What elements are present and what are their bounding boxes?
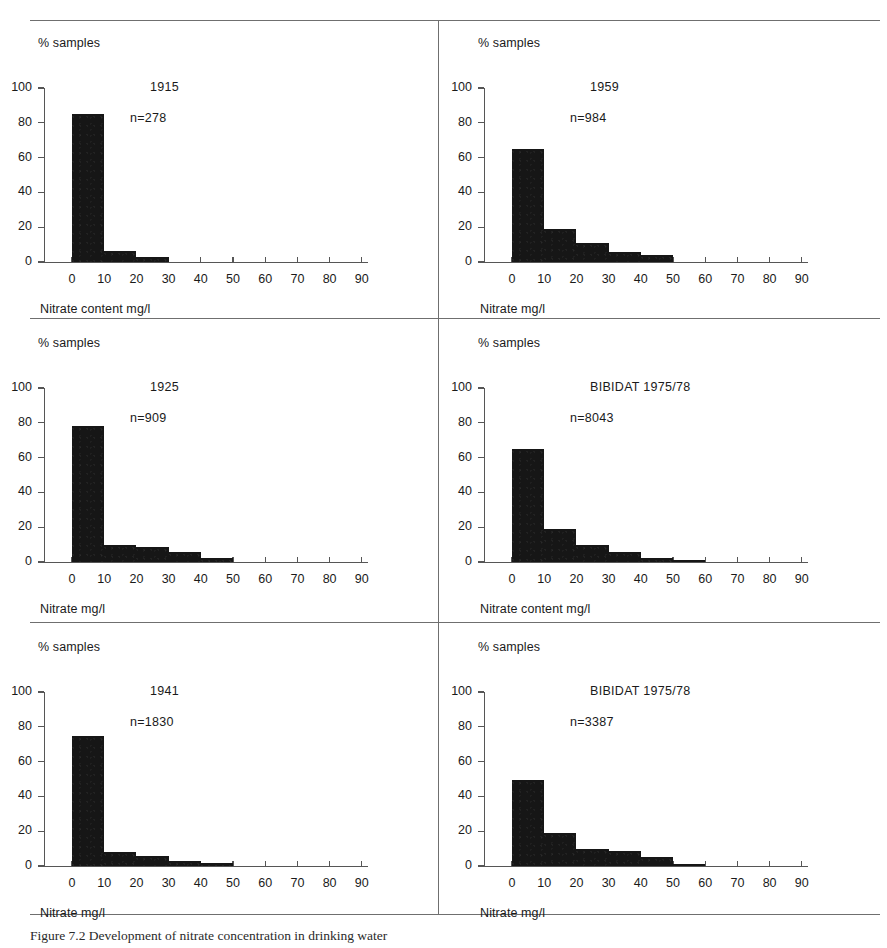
y-axis-spine xyxy=(44,388,45,562)
x-axis-spine xyxy=(484,562,808,563)
y-axis-tick-label: 40 xyxy=(0,788,32,802)
column-divider-row2 xyxy=(438,318,439,622)
x-axis-spine xyxy=(484,866,808,867)
x-axis-tick-label: 80 xyxy=(314,272,346,286)
y-axis-tick xyxy=(478,227,484,228)
x-axis-tick xyxy=(801,557,802,562)
y-axis-tick-label: 80 xyxy=(0,719,32,733)
histogram-bar xyxy=(576,243,608,262)
x-axis-tick-label: 50 xyxy=(657,572,689,586)
y-axis-tick xyxy=(478,87,484,88)
x-axis-tick xyxy=(297,861,298,866)
y-axis-spine xyxy=(484,692,485,866)
y-axis-tick xyxy=(38,865,44,866)
x-axis-tick-label: 50 xyxy=(657,272,689,286)
series-title: 1925 xyxy=(150,380,179,394)
histogram-bar xyxy=(609,252,641,262)
x-axis-tick-label: 0 xyxy=(496,876,528,890)
y-axis-tick-label: 0 xyxy=(0,254,32,268)
plot-area: % samplesBIBIDAT 1975/78n=80430204060801… xyxy=(440,322,878,622)
histogram-bar xyxy=(673,864,705,866)
x-axis-tick-label: 60 xyxy=(689,272,721,286)
sample-count-label: n=909 xyxy=(130,411,167,425)
y-axis-tick xyxy=(38,192,44,193)
x-axis-tick-label: 30 xyxy=(153,272,185,286)
y-axis-tick xyxy=(38,691,44,692)
y-axis-tick xyxy=(38,726,44,727)
y-axis-spine xyxy=(484,388,485,562)
plot-area: % samples1959n=9840204060801000102030405… xyxy=(440,22,878,322)
y-axis-tick-label: 40 xyxy=(0,484,32,498)
y-axis-tick xyxy=(478,261,484,262)
series-title: 1941 xyxy=(150,684,179,698)
x-axis-tick xyxy=(769,257,770,262)
y-axis-tick-label: 100 xyxy=(0,380,32,394)
x-axis-tick xyxy=(265,861,266,866)
x-axis-label: Nitrate content mg/l xyxy=(40,302,150,316)
histogram-bar xyxy=(512,780,544,866)
x-axis-tick-label: 90 xyxy=(346,272,378,286)
y-axis-tick-label: 100 xyxy=(0,80,32,94)
y-axis-tick xyxy=(38,157,44,158)
x-axis-tick-label: 40 xyxy=(625,572,657,586)
y-axis-tick xyxy=(478,387,484,388)
x-axis-tick-label: 90 xyxy=(346,572,378,586)
y-axis-tick xyxy=(478,726,484,727)
x-axis-tick-label: 0 xyxy=(56,876,88,890)
y-axis-spine xyxy=(44,88,45,262)
x-axis-tick-label: 70 xyxy=(281,272,313,286)
histogram-bar xyxy=(72,736,104,867)
x-axis-spine xyxy=(44,866,368,867)
y-axis-tick-label: 60 xyxy=(436,150,472,164)
x-axis-tick xyxy=(737,557,738,562)
y-axis-tick xyxy=(38,227,44,228)
chart-panel-1941: % samples1941n=1830020406080100010203040… xyxy=(0,626,438,926)
histogram-bar xyxy=(641,857,673,866)
y-axis-tick-label: 20 xyxy=(0,219,32,233)
y-axis-tick-label: 40 xyxy=(436,184,472,198)
y-axis-label: % samples xyxy=(38,640,100,654)
y-axis-tick xyxy=(38,422,44,423)
x-axis-tick-label: 50 xyxy=(657,876,689,890)
y-axis-spine xyxy=(44,692,45,866)
histogram-bar xyxy=(72,426,104,562)
x-axis-tick-label: 30 xyxy=(593,876,625,890)
x-axis-tick-label: 30 xyxy=(153,572,185,586)
x-axis-tick xyxy=(329,861,330,866)
x-axis-tick-label: 70 xyxy=(721,572,753,586)
x-axis-tick-label: 10 xyxy=(88,876,120,890)
y-axis-tick xyxy=(38,527,44,528)
x-axis-tick xyxy=(265,557,266,562)
chart-panel-bibidat-3387: % samplesBIBIDAT 1975/78n=33870204060801… xyxy=(440,626,878,926)
y-axis-tick-label: 40 xyxy=(436,484,472,498)
series-title: BIBIDAT 1975/78 xyxy=(590,380,691,394)
x-axis-tick-label: 10 xyxy=(528,272,560,286)
y-axis-tick xyxy=(478,561,484,562)
x-axis-tick xyxy=(200,257,201,262)
series-title: 1959 xyxy=(590,80,619,94)
x-axis-tick xyxy=(361,861,362,866)
series-title: BIBIDAT 1975/78 xyxy=(590,684,691,698)
x-axis-tick-label: 10 xyxy=(88,272,120,286)
y-axis-tick xyxy=(478,527,484,528)
y-axis-tick xyxy=(478,865,484,866)
histogram-bar xyxy=(544,529,576,562)
y-axis-tick xyxy=(478,157,484,158)
y-axis-tick xyxy=(38,796,44,797)
y-axis-tick-label: 40 xyxy=(0,184,32,198)
y-axis-tick xyxy=(38,122,44,123)
x-axis-tick-label: 80 xyxy=(314,572,346,586)
x-axis-tick-label: 90 xyxy=(786,572,818,586)
y-axis-tick xyxy=(38,561,44,562)
x-axis-tick-label: 10 xyxy=(528,876,560,890)
histogram-bar xyxy=(136,257,168,262)
y-axis-tick-label: 60 xyxy=(0,150,32,164)
x-axis-tick xyxy=(705,257,706,262)
y-axis-tick-label: 0 xyxy=(436,858,472,872)
chart-panel-1915: % samples1915n=2780204060801000102030405… xyxy=(0,22,438,322)
x-axis-tick-label: 70 xyxy=(721,876,753,890)
series-title: 1915 xyxy=(150,80,179,94)
x-axis-tick-label: 90 xyxy=(346,876,378,890)
x-axis-tick-label: 0 xyxy=(56,572,88,586)
x-axis-tick-label: 50 xyxy=(217,272,249,286)
